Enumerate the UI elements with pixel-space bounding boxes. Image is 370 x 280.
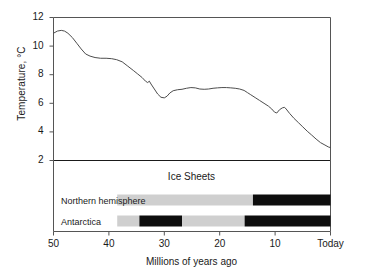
x-tick-label: 50 [34,238,74,249]
y-tick-label: 12 [22,11,44,22]
y-tick-label: 10 [22,40,44,51]
paleoclimate-figure: Temperature, °C Millions of years ago Ic… [0,0,370,280]
temperature-curve [54,30,331,147]
x-tick-label: 30 [144,238,184,249]
x-tick-label: 10 [255,238,295,249]
ice-band-segment [117,216,139,227]
x-tick-label: 40 [89,238,129,249]
plot-frame [54,18,331,161]
x-tick-label: Today [311,238,351,249]
band-label-northern-hemisphere: Northern hemisphere [61,196,146,206]
x-tick-label: 20 [200,238,240,249]
ice-band-segment [182,216,245,227]
ice-band-segment [139,216,182,227]
y-tick-label: 6 [22,97,44,108]
ice-band-segment [245,216,331,227]
band-label-antarctica: Antarctica [61,217,101,227]
y-tick-label: 8 [22,68,44,79]
ice-band-segment [253,195,331,206]
ice-sheets-panel-title: Ice Sheets [53,171,330,182]
y-tick-label: 2 [22,154,44,165]
x-axis-title: Millions of years ago [53,256,330,267]
y-tick-label: 4 [22,125,44,136]
